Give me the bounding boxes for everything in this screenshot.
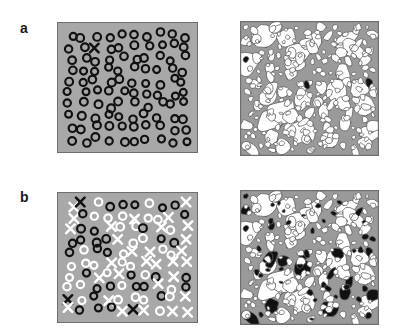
grain-open <box>247 211 252 216</box>
grain-open <box>275 66 280 70</box>
panel-label-a: a <box>20 21 28 35</box>
grain-filled <box>322 219 326 223</box>
grain-open <box>316 81 322 85</box>
grain-open <box>313 282 316 286</box>
grain-filled <box>277 201 280 205</box>
grain-open <box>267 137 270 141</box>
figure-container: a b <box>0 0 393 332</box>
grain-open <box>246 247 253 253</box>
grain-open <box>290 67 296 72</box>
panel-b-left-schematic <box>57 192 198 323</box>
grain-open <box>302 45 306 47</box>
grain-filled <box>259 274 264 278</box>
grain-open <box>352 304 356 308</box>
grain-open <box>334 207 337 211</box>
grain-open <box>285 204 290 208</box>
grain-open <box>284 28 288 31</box>
grain-open <box>336 243 338 247</box>
grain-open <box>338 43 342 45</box>
grain-open <box>336 74 338 78</box>
grain-open <box>342 32 348 37</box>
grain-open <box>371 107 375 112</box>
grain-open <box>250 253 256 258</box>
panel-b-right-micrograph <box>240 190 379 325</box>
grain-open <box>313 113 316 117</box>
grain-open <box>318 142 323 147</box>
grain-open <box>279 73 283 76</box>
grain-filled <box>243 194 248 199</box>
grain-open <box>332 133 339 139</box>
grain-open <box>278 44 282 49</box>
grain-open <box>284 197 288 200</box>
grain-open <box>360 302 364 306</box>
grain-filled <box>365 312 371 319</box>
grain-open <box>259 105 264 109</box>
grain-open <box>298 223 302 227</box>
grain-open <box>368 300 371 303</box>
grain-open <box>245 314 249 318</box>
grain-open <box>283 299 289 304</box>
grain-open <box>266 233 270 236</box>
grain-open <box>323 102 327 105</box>
grain-open <box>330 79 334 83</box>
grain-open <box>323 271 327 274</box>
grain-open <box>253 297 257 301</box>
grain-open <box>352 135 356 139</box>
grain-open <box>262 131 266 135</box>
panel-label-b: b <box>20 190 29 204</box>
grain-open <box>254 285 259 288</box>
grain-open <box>360 133 364 137</box>
grain-open <box>245 145 249 149</box>
grain-open <box>259 226 263 229</box>
grain-open <box>279 112 283 114</box>
grain-filled <box>311 228 315 234</box>
grain-open <box>243 25 248 30</box>
grain-open <box>259 50 265 55</box>
grain-open <box>279 242 283 245</box>
grain-open <box>318 311 323 316</box>
grain-open <box>259 57 263 60</box>
grain-open <box>332 302 339 308</box>
grain-open <box>347 82 351 88</box>
grain-filled <box>362 234 369 239</box>
grain-filled <box>265 268 270 271</box>
grain-open <box>283 130 289 135</box>
grain-open <box>274 142 278 145</box>
grain-open <box>322 58 328 64</box>
grain-open <box>336 274 339 277</box>
panel-a-left-schematic <box>57 22 198 153</box>
grain-open <box>265 99 270 102</box>
grain-filled <box>302 214 306 216</box>
grain-open <box>290 236 296 241</box>
grain-open <box>320 71 326 76</box>
grain-open <box>255 40 259 44</box>
grain-open <box>330 248 334 252</box>
grain-open <box>278 213 282 218</box>
grain-filled <box>279 267 284 271</box>
grain-open <box>322 227 328 233</box>
grain-open <box>360 94 365 100</box>
grain-open <box>359 230 362 235</box>
grain-open <box>294 195 298 198</box>
grain-open <box>342 95 350 101</box>
grain-open <box>268 54 270 57</box>
grain-filled <box>313 298 317 302</box>
grain-open <box>285 58 291 65</box>
grain-open <box>247 42 252 47</box>
grain-open <box>262 300 266 304</box>
grain-open <box>368 131 371 134</box>
grain-open <box>294 26 298 29</box>
grain-open <box>277 32 280 36</box>
grain-open <box>338 59 341 63</box>
grain-open <box>322 50 326 54</box>
grain-open <box>336 105 339 108</box>
grain-open <box>365 143 371 150</box>
grain-open <box>285 35 290 39</box>
grain-open <box>315 199 320 203</box>
grain-open <box>315 30 320 34</box>
grain-open <box>325 137 332 143</box>
grain-open <box>338 228 341 232</box>
grain-open <box>325 306 332 312</box>
grain-open <box>246 78 253 84</box>
grain-open <box>351 126 355 129</box>
